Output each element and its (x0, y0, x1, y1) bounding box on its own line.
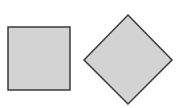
diagram-canvas (0, 0, 180, 108)
diamond-shape (84, 15, 172, 104)
square-shape (8, 27, 70, 90)
